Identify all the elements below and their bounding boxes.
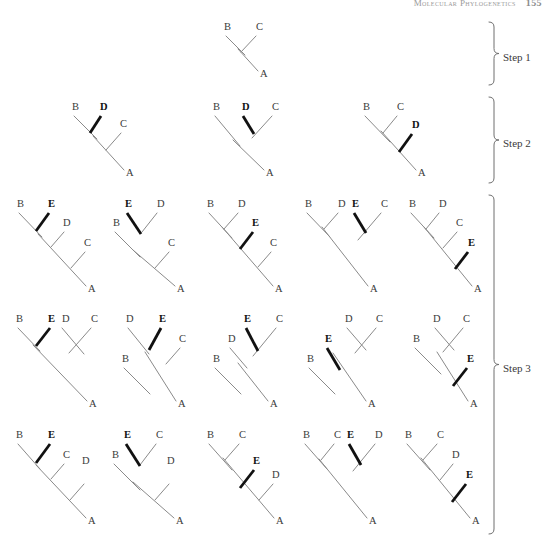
tree-branch <box>124 368 150 394</box>
tree-branch <box>222 227 273 286</box>
tree-branch <box>259 484 273 500</box>
taxon-label-d: D <box>238 198 246 209</box>
tree-branch-highlighted <box>126 444 140 466</box>
tree-branch <box>223 458 274 518</box>
taxon-label-b: B <box>213 353 220 364</box>
taxon-label-a: A <box>88 283 96 294</box>
taxon-label-e: E <box>352 198 359 209</box>
tree-branch <box>62 328 84 354</box>
tree-branch <box>128 328 149 354</box>
tree-branch <box>19 213 42 237</box>
tree-branch <box>333 353 366 401</box>
tree-branch <box>383 116 397 133</box>
step-label: Step 2 <box>503 137 531 149</box>
tree-branch <box>155 484 169 500</box>
step-label: Step 3 <box>503 362 531 374</box>
tree-branch <box>411 213 434 238</box>
taxon-label-e: E <box>124 429 131 440</box>
tree-branch-highlighted <box>240 232 253 249</box>
tree-branch <box>319 459 367 518</box>
taxon-label-e: E <box>347 429 354 440</box>
taxon-label-c: C <box>334 429 341 440</box>
taxon-label-a: A <box>89 398 97 409</box>
taxon-label-d: D <box>228 333 236 344</box>
tree-diagram: BDCA <box>72 101 134 178</box>
taxon-label-d: D <box>62 313 70 324</box>
taxon-label-e: E <box>48 198 55 209</box>
tree-branch <box>155 252 169 268</box>
taxon-label-b: B <box>405 429 412 440</box>
taxon-label-b: B <box>207 198 214 209</box>
tree-branch <box>215 116 240 146</box>
tree-branch <box>38 234 86 286</box>
tree-branch-highlighted <box>246 328 258 351</box>
taxon-label-c: C <box>168 237 175 248</box>
taxon-label-c: C <box>437 429 444 440</box>
taxon-label-e: E <box>467 353 474 364</box>
taxon-label-b: B <box>305 198 312 209</box>
taxon-label-b: B <box>409 198 416 209</box>
taxon-label-a: A <box>474 283 482 294</box>
tree-diagram: BDCA <box>213 101 279 178</box>
taxon-label-e: E <box>253 455 260 466</box>
taxon-label-c: C <box>63 449 70 460</box>
tree-branch <box>309 368 335 394</box>
taxon-label-b: B <box>213 101 220 112</box>
tree-branch-highlighted <box>149 328 161 350</box>
tree-diagram: BEDCA <box>16 429 96 526</box>
taxon-label-b: B <box>72 101 79 112</box>
taxon-label-a: A <box>266 167 274 178</box>
tree-branch <box>114 464 140 490</box>
tree-branch <box>443 232 457 248</box>
tree-branch <box>70 484 84 500</box>
bracket-curve <box>489 97 499 183</box>
taxon-label-a: A <box>275 283 283 294</box>
taxon-label-e: E <box>468 237 475 248</box>
taxon-label-a: A <box>270 398 278 409</box>
taxon-label-b: B <box>16 313 23 324</box>
bracket-curve <box>489 22 499 85</box>
tree-branch <box>230 348 247 368</box>
taxon-label-d: D <box>439 198 447 209</box>
tree-diagram: DCBEA <box>413 313 478 409</box>
taxon-label-c: C <box>156 429 163 440</box>
taxon-label-b: B <box>207 429 214 440</box>
taxon-label-c: C <box>239 429 246 440</box>
tree-diagram: BCDEA <box>405 429 480 526</box>
taxon-label-b: B <box>363 101 370 112</box>
tree-diagram: BCA <box>224 21 268 79</box>
taxon-label-c: C <box>376 313 383 324</box>
taxon-label-b: B <box>113 217 120 228</box>
tree-branch <box>426 213 439 229</box>
tree-branch-highlighted <box>90 116 101 133</box>
tree-branch <box>440 464 453 480</box>
tree-diagram: BDECA <box>207 198 283 294</box>
tree-branch-highlighted <box>243 116 254 134</box>
tree-branch <box>71 252 85 268</box>
taxon-label-a: A <box>369 515 377 526</box>
taxon-label-d: D <box>433 313 441 324</box>
tree-branch <box>252 116 272 138</box>
taxon-label-d: D <box>242 101 250 112</box>
tree-diagram: ECBDA <box>112 429 184 526</box>
taxon-label-c: C <box>456 217 463 228</box>
taxon-label-d: D <box>157 198 165 209</box>
tree-branch <box>106 133 121 150</box>
taxon-label-c: C <box>179 333 186 344</box>
tree-branch-highlighted <box>452 484 466 502</box>
tree-diagram: BEDCA <box>16 313 98 409</box>
tree-branch <box>18 328 40 351</box>
tree-diagram: BCEDA <box>303 429 383 526</box>
tree-branch-highlighted <box>455 252 468 269</box>
tree-branch <box>33 345 87 401</box>
step-bracket: Step 1 <box>489 22 531 85</box>
taxon-label-c: C <box>463 313 470 324</box>
tree-branch <box>435 328 454 350</box>
tree-branch <box>238 49 258 71</box>
taxon-label-b: B <box>303 429 310 440</box>
taxon-label-a: A <box>176 515 184 526</box>
step-bracket: Step 2 <box>489 97 531 183</box>
taxon-label-d: D <box>345 313 353 324</box>
tree-branch <box>226 36 245 55</box>
tree-branch <box>233 140 264 170</box>
